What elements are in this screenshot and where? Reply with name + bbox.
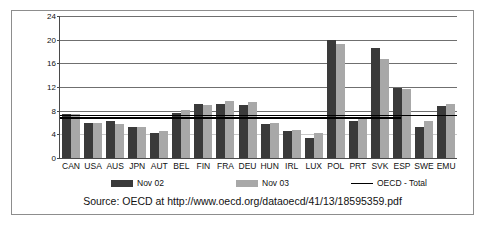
bar <box>380 59 389 158</box>
legend-item: Nov 03 <box>236 178 289 188</box>
bar-group: DEU <box>237 16 259 158</box>
bar <box>415 127 424 158</box>
bar <box>172 113 181 158</box>
bar <box>371 48 380 158</box>
x-axis-tick-label: BEL <box>173 161 189 171</box>
bar <box>62 114 71 158</box>
legend-label: Nov 02 <box>137 178 164 188</box>
x-axis-tick-label: SWE <box>414 161 433 171</box>
bar-group: EMU <box>435 16 457 158</box>
bar <box>393 88 402 158</box>
x-axis-tick-label: HUN <box>260 161 278 171</box>
y-axis-tick-label: 0 <box>52 154 56 163</box>
bar-group: AUT <box>148 16 170 158</box>
bar <box>159 131 168 158</box>
bar-group: PRT <box>347 16 369 158</box>
plot-area: 04812162024 CANUSAAUSJPNAUTBELFINFRADEUH… <box>59 16 457 159</box>
bar <box>115 124 124 158</box>
bar <box>216 104 225 158</box>
oecd-total-reference-line <box>60 117 401 119</box>
bar <box>270 123 279 159</box>
bar-group: JPN <box>126 16 148 158</box>
bar <box>336 44 345 158</box>
bar-group: FRA <box>214 16 236 158</box>
x-axis-tick-label: IRL <box>285 161 298 171</box>
legend-bar-swatch-icon <box>236 180 258 187</box>
chart-figure: 04812162024 CANUSAAUSJPNAUTBELFINFRADEUH… <box>11 10 474 215</box>
x-axis-tick-label: ESP <box>393 161 410 171</box>
bar-group: ESP <box>391 16 413 158</box>
y-axis-tick-label: 16 <box>47 59 56 68</box>
bar <box>93 123 102 158</box>
chart-legend: Nov 02Nov 03OECD - Total <box>59 178 456 192</box>
bar <box>239 105 248 158</box>
y-axis-tick-label: 8 <box>52 106 56 115</box>
bar <box>292 130 301 158</box>
bar-group: POL <box>325 16 347 158</box>
bar-group: CAN <box>60 16 82 158</box>
bar <box>283 131 292 158</box>
x-axis-tick-label: PRT <box>349 161 366 171</box>
y-axis-tick-mark <box>57 158 60 159</box>
bar <box>225 101 234 158</box>
legend-item: OECD - Total <box>351 178 427 188</box>
x-axis-tick-label: AUS <box>106 161 123 171</box>
x-axis-tick-label: SVK <box>371 161 388 171</box>
x-axis-tick-label: DEU <box>239 161 257 171</box>
bar <box>261 124 270 158</box>
x-axis-tick-label: LUX <box>305 161 322 171</box>
x-axis-tick-label: POL <box>327 161 344 171</box>
legend-label: Nov 03 <box>262 178 289 188</box>
bar-group: SVK <box>369 16 391 158</box>
bar <box>358 117 367 158</box>
y-axis-tick-label: 24 <box>47 12 56 21</box>
bar <box>446 104 455 158</box>
source-note: Source: OECD at http://www.oecd.org/data… <box>12 195 473 207</box>
x-axis-tick-label: FRA <box>217 161 234 171</box>
bar <box>106 121 115 158</box>
bar-group: USA <box>82 16 104 158</box>
x-axis-tick-label: CAN <box>62 161 80 171</box>
bar <box>71 114 80 158</box>
y-axis-tick-label: 4 <box>52 130 56 139</box>
bar-group: SWE <box>413 16 435 158</box>
bar <box>248 102 257 158</box>
y-axis-tick-label: 20 <box>47 35 56 44</box>
bar <box>402 89 411 158</box>
bar-group: BEL <box>170 16 192 158</box>
bar <box>314 133 323 158</box>
legend-line-swatch-icon <box>351 183 373 184</box>
x-axis-tick-label: JPN <box>129 161 145 171</box>
bar-group: IRL <box>281 16 303 158</box>
bar <box>137 127 146 158</box>
bar-group: LUX <box>303 16 325 158</box>
bar-group: FIN <box>192 16 214 158</box>
bar <box>349 121 358 158</box>
x-axis-tick-label: EMU <box>437 161 456 171</box>
bar <box>128 127 137 158</box>
oecd-total-reference-line <box>60 115 457 117</box>
bar-group: AUS <box>104 16 126 158</box>
bar <box>327 40 336 158</box>
x-axis-tick-label: AUT <box>151 161 168 171</box>
bar <box>194 104 203 158</box>
bar <box>424 121 433 158</box>
x-axis-tick-label: FIN <box>197 161 211 171</box>
bar <box>84 123 93 158</box>
legend-label: OECD - Total <box>377 178 427 188</box>
bar <box>305 138 314 158</box>
bar-group: HUN <box>259 16 281 158</box>
legend-bar-swatch-icon <box>111 180 133 187</box>
bar <box>203 105 212 158</box>
x-axis-tick-label: USA <box>84 161 101 171</box>
y-axis-tick-label: 12 <box>47 83 56 92</box>
bar <box>150 133 159 158</box>
bar <box>437 106 446 158</box>
legend-item: Nov 02 <box>111 178 164 188</box>
bar-groups: CANUSAAUSJPNAUTBELFINFRADEUHUNIRLLUXPOLP… <box>60 16 457 158</box>
